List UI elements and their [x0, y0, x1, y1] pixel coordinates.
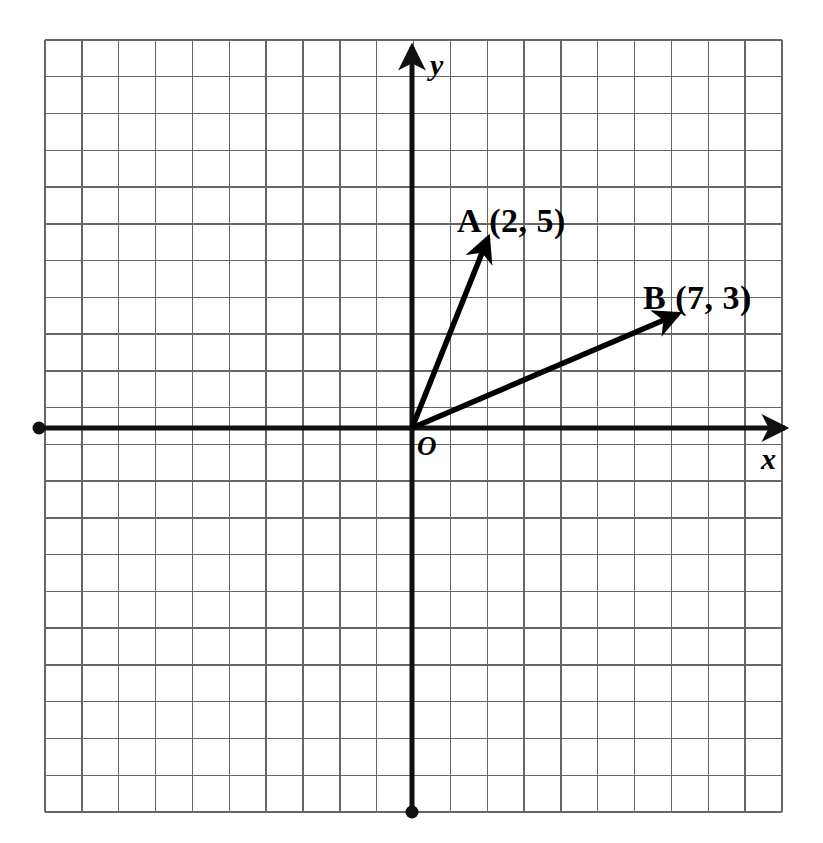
y-axis-label: y: [430, 50, 443, 80]
vector-b-label: B (7, 3): [643, 281, 752, 315]
coordinate-grid-figure: A (2, 5) B (7, 3) x y O: [0, 0, 823, 843]
vector-a-label: A (2, 5): [457, 204, 566, 238]
x-axis-end-dot: [33, 422, 46, 435]
y-axis-end-dot: [406, 806, 419, 819]
figure-canvas: [0, 0, 823, 843]
x-axis-label: x: [761, 444, 776, 474]
origin-label: O: [417, 433, 437, 460]
